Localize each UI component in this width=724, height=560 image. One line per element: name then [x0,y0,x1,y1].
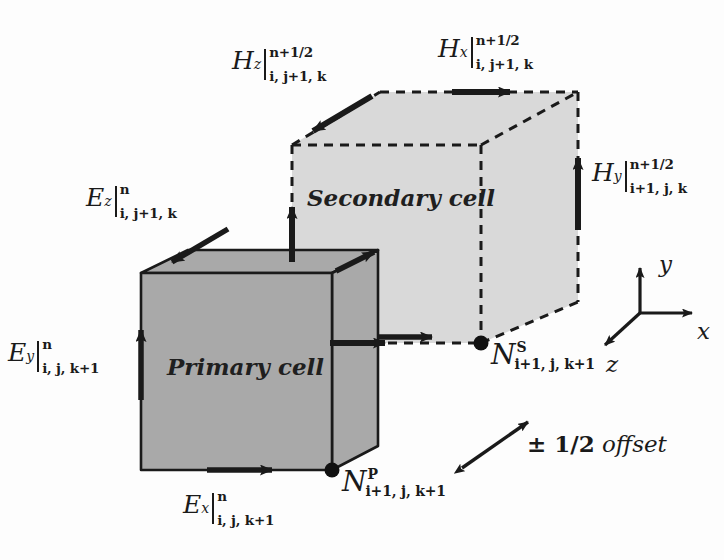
label-Hx-base: H [438,36,461,61]
label-Ey-superscript: n [42,338,99,352]
node-label-primary: N P i+1, j, k+1 [342,468,448,496]
axis-label-y: y [659,253,672,276]
label-Hy-base-sub: y [614,169,622,183]
label-Ey: Ey n i, j, k+1 [8,340,99,373]
node-label-secondary-base: N [491,341,516,369]
label-Hz-base: H [232,48,255,73]
label-Hy-subscript: i+1, j, k [630,182,687,196]
label-Ex: Ex n i, j, k+1 [183,492,274,525]
label-Ex-base: E [183,492,202,517]
node-label-primary-superscript: P [368,467,448,481]
label-Ez-base: E [86,185,105,210]
eval-bar [625,161,627,192]
node-label-secondary-superscript: S [517,340,597,354]
label-Ey-subscript: i, j, k+1 [42,362,99,376]
primary-right-face [332,250,378,470]
label-Hx-superscript: n+1/2 [476,34,533,48]
eval-bar [264,49,266,80]
node-label-primary-subscript: i+1, j, k+1 [366,484,446,498]
axis-label-x: x [697,320,710,343]
node-dot-primary [325,463,340,478]
eval-bar [37,341,39,372]
node-label-secondary-subscript: i+1, j, k+1 [515,357,595,371]
node-dot-secondary [474,336,489,351]
secondary-cell-label: Secondary cell [307,186,495,209]
offset-word: offset [602,431,667,457]
label-Hz-superscript: n+1/2 [269,46,326,60]
label-Hz-subscript: i, j+1, k [269,70,326,84]
label-Hy-base: H [592,160,615,185]
eval-bar [115,186,117,217]
label-Hy: Hy n+1/2 i+1, j, k [592,160,687,193]
label-Ex-subscript: i, j, k+1 [217,514,274,528]
label-Hz-base-sub: z [254,57,261,71]
fdtd-yee-cell-diagram: Hz n+1/2 i, j+1, k Hx n+1/2 i, j+1, k Hy… [0,0,724,560]
label-Ez-superscript: n [120,183,177,197]
label-Ez: Ez n i, j+1, k [86,185,177,218]
label-Ex-superscript: n [217,490,274,504]
label-Hx-base-sub: x [460,45,468,59]
eval-bar [471,37,473,68]
axis-label-z: z [606,353,618,376]
label-Hy-superscript: n+1/2 [630,158,687,172]
primary-cell-label: Primary cell [167,355,324,378]
label-Ez-subscript: i, j+1, k [120,207,177,221]
node-label-primary-base: N [342,468,367,496]
coordinate-axes [605,268,692,345]
label-Ez-base-sub: z [104,194,111,208]
label-Ey-base: E [8,340,27,365]
label-Hz: Hz n+1/2 i, j+1, k [232,48,326,81]
node-label-secondary: N S i+1, j, k+1 [491,341,597,369]
eval-bar [212,493,214,524]
label-Hx-subscript: i, j+1, k [476,58,533,72]
offset-symbol: ± 1/2 [527,430,595,457]
label-Ex-base-sub: x [201,501,209,515]
offset-annotation: ± 1/2 offset [527,432,667,456]
offset-double-arrow [462,422,528,468]
label-Ey-base-sub: y [26,349,34,363]
axis-z-arrow [605,313,640,345]
label-Hx: Hx n+1/2 i, j+1, k [438,36,533,69]
